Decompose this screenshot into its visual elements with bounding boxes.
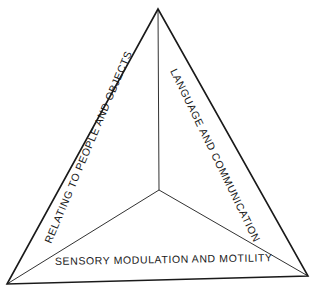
label-language-and-communication: LANGUAGE AND COMMUNICATION [168, 67, 263, 244]
label-sensory-modulation-and-motility: SENSORY MODULATION AND MOTILITY [55, 251, 273, 267]
label-relating-to-people-and-objects: RELATING TO PEOPLE AND OBJECTS [42, 49, 134, 245]
divider-top [158, 9, 159, 190]
triangle-diagram: RELATING TO PEOPLE AND OBJECTS LANGUAGE … [0, 0, 315, 288]
divider-left [7, 190, 159, 284]
